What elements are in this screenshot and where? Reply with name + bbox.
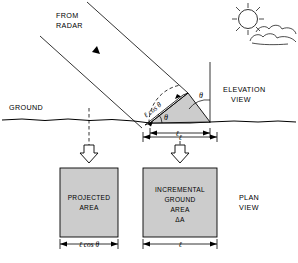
radar-geometry-figure: FROM RADAR GROUND ELEVATION VIEW ℓ cos θ…	[0, 0, 298, 263]
projection-drop-left	[80, 108, 98, 163]
incremental-top-dimension-label: ℓ	[178, 133, 182, 142]
down-block-arrow-icon-right	[171, 145, 189, 163]
elevation-view-label-line2: VIEW	[231, 95, 251, 104]
incremental-area-label-line3: AREA	[170, 206, 189, 213]
projected-area-label-line1: PROJECTED	[68, 194, 111, 201]
radar-label-line2: RADAR	[56, 21, 83, 30]
incremental-area-label-line1: INCREMENTAL	[155, 186, 205, 193]
radar-beam-ray-upper	[87, 2, 188, 93]
beam-direction-arrow-icon	[85, 42, 100, 54]
ground-label: GROUND	[9, 103, 43, 112]
radar-label-line1: FROM	[56, 11, 79, 20]
angle-label-vertical: θ	[199, 91, 203, 100]
incremental-area-label-line2: GROUND	[164, 196, 195, 203]
projected-area-box	[60, 168, 118, 237]
angle-label-slope: θ	[164, 113, 168, 122]
sun-icon	[232, 3, 264, 35]
incremental-dimension-label: ℓ	[178, 240, 182, 249]
projected-area-label-line2: AREA	[79, 204, 98, 211]
plan-view-label-line2: VIEW	[239, 203, 259, 212]
elevation-view-label-line1: ELEVATION	[223, 85, 265, 94]
diagram-canvas: FROM RADAR GROUND ELEVATION VIEW ℓ cos θ…	[0, 0, 298, 263]
projected-dimension-label: ℓ cos θ	[79, 240, 100, 249]
plan-view-label-line1: PLAN	[239, 193, 259, 202]
down-block-arrow-icon-left	[80, 145, 98, 163]
incremental-area-label-line4: ΔA	[175, 216, 185, 223]
radar-beam-ray-lower	[40, 36, 142, 128]
projection-drop-right	[171, 141, 189, 163]
